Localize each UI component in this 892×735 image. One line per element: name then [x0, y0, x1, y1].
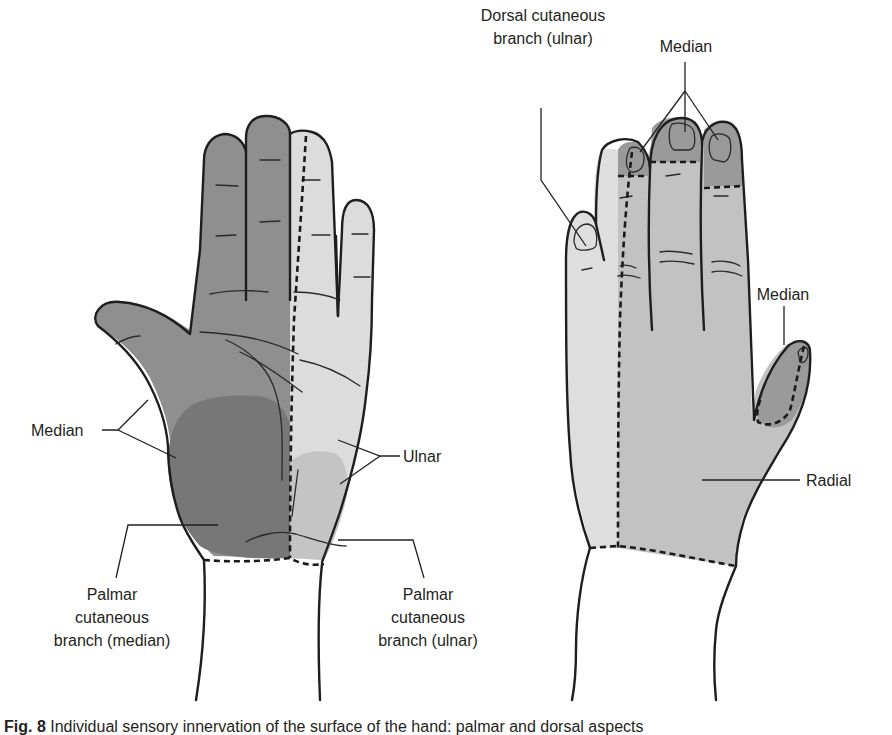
median-tip-middle: [650, 117, 700, 162]
caption-prefix: Fig. 8: [4, 718, 46, 735]
dorsal-hand-view: [566, 117, 810, 700]
caption-text: Individual sensory innervation of the su…: [50, 718, 643, 735]
label-dorsal-cutaneous-2: branch (ulnar): [493, 30, 593, 47]
dorsal-forearm-left: [572, 548, 590, 700]
wrist-boundary-palmar: [204, 558, 324, 565]
label-median-fingertips: Median: [660, 38, 712, 55]
label-median-thumb: Median: [757, 286, 809, 303]
dorsal-forearm-right: [715, 566, 737, 700]
label-palmar-ulnar-2: cutaneous: [391, 609, 465, 626]
figure-caption: Fig. 8 Individual sensory innervation of…: [4, 718, 892, 735]
palmar-cutaneous-ulnar-zone: [290, 451, 348, 560]
label-median-palmar: Median: [31, 422, 83, 439]
palmar-forearm-left: [196, 560, 205, 700]
hand-innervation-figure: Median Ulnar Palmar cutaneous branch (me…: [0, 0, 892, 735]
label-ulnar: Ulnar: [403, 448, 442, 465]
label-dorsal-cutaneous-1: Dorsal cutaneous: [481, 7, 606, 24]
palmar-forearm-right: [319, 564, 322, 700]
label-palmar-median-2: cutaneous: [75, 609, 149, 626]
label-palmar-ulnar-1: Palmar: [403, 586, 454, 603]
label-palmar-median-1: Palmar: [87, 586, 138, 603]
label-palmar-ulnar-3: branch (ulnar): [378, 632, 478, 649]
label-radial: Radial: [806, 472, 851, 489]
label-palmar-median-3: branch (median): [54, 632, 171, 649]
